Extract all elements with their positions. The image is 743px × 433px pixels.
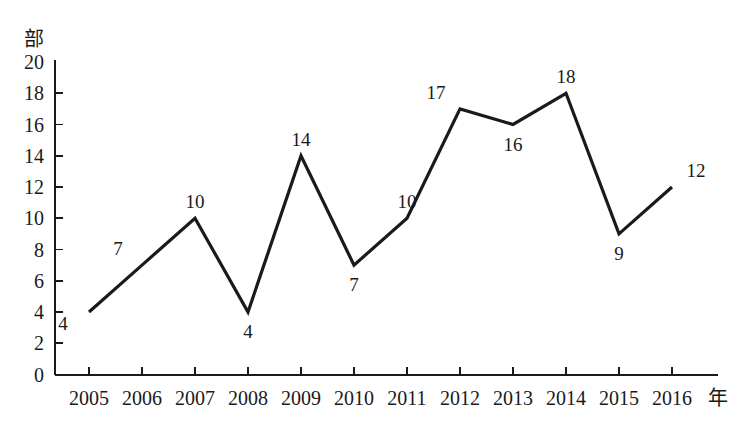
x-axis-tick-label: 2005 — [59, 388, 119, 408]
x-axis-tick-label: 2009 — [271, 388, 331, 408]
x-axis-ticks — [89, 367, 672, 375]
y-axis-tick-label: 4 — [4, 302, 44, 322]
y-axis-tick-label: 18 — [4, 83, 44, 103]
x-axis-tick-label: 2006 — [112, 388, 172, 408]
data-point-label: 10 — [178, 192, 212, 211]
data-point-label: 4 — [46, 314, 80, 333]
x-axis-tick-label: 2015 — [589, 388, 649, 408]
x-axis-tick-label: 2016 — [642, 388, 702, 408]
chart-plot-area — [0, 0, 743, 433]
x-axis-unit-label: 年 — [708, 388, 728, 408]
data-point-label: 17 — [419, 83, 453, 102]
line-chart: 部 年 02468101214161820 200520062007200820… — [0, 0, 743, 433]
data-point-label: 14 — [284, 130, 318, 149]
data-point-label: 10 — [390, 192, 424, 211]
y-axis-tick-label: 12 — [4, 177, 44, 197]
y-axis-tick-label: 0 — [4, 365, 44, 385]
x-axis-tick-label: 2011 — [377, 388, 437, 408]
y-axis-tick-label: 6 — [4, 271, 44, 291]
x-axis-tick-label: 2008 — [218, 388, 278, 408]
data-point-label: 4 — [231, 322, 265, 341]
x-axis-tick-label: 2013 — [483, 388, 543, 408]
x-axis-tick-label: 2007 — [165, 388, 225, 408]
data-point-label: 7 — [101, 239, 135, 258]
y-axis-tick-label: 14 — [4, 146, 44, 166]
x-axis-tick-label: 2010 — [324, 388, 384, 408]
data-series-line — [89, 93, 672, 312]
y-axis-tick-label: 8 — [4, 240, 44, 260]
x-axis-tick-label: 2012 — [430, 388, 490, 408]
x-axis-tick-label: 2014 — [536, 388, 596, 408]
y-axis-tick-label: 20 — [4, 52, 44, 72]
data-point-label: 16 — [496, 135, 530, 154]
data-point-label: 18 — [549, 67, 583, 86]
y-axis-unit-label: 部 — [24, 29, 44, 49]
data-point-label: 7 — [337, 275, 371, 294]
data-point-label: 12 — [679, 161, 713, 180]
y-axis-tick-label: 10 — [4, 208, 44, 228]
y-axis-tick-label: 16 — [4, 115, 44, 135]
data-point-label: 9 — [602, 244, 636, 263]
y-axis-tick-label: 2 — [4, 333, 44, 353]
